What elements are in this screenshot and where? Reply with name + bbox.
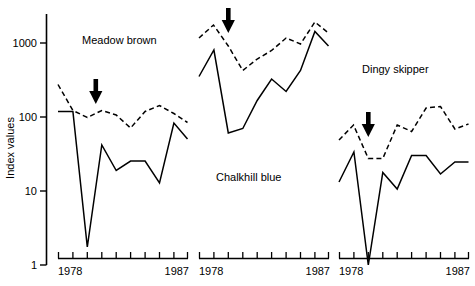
panel1-solid-series — [58, 112, 188, 248]
panel1-year-end: 1987 — [165, 265, 189, 277]
panel1-year-start: 1978 — [58, 265, 82, 277]
panel1-down-arrow-icon — [89, 79, 102, 104]
y-tick-label-10: 10 — [25, 185, 37, 197]
panel2-down-arrow-icon — [222, 8, 235, 33]
y-tick-label-1000: 1000 — [13, 37, 37, 49]
y-axis-title: Index values — [4, 117, 16, 179]
y-axis: 1000 100 10 1 Index values — [4, 14, 47, 271]
panel1-dashed-series — [58, 85, 188, 129]
y-tick-label-100: 100 — [19, 111, 37, 123]
panel-meadow-brown: 1978 1987 Meadow brown — [58, 34, 189, 277]
panel3-species-label: Dingy skipper — [362, 63, 429, 75]
y-tick-label-1: 1 — [31, 259, 37, 271]
chart-canvas: 1000 100 10 1 Index values 1978 — [0, 0, 475, 286]
panel-dingy-skipper: 1978 1987 Dingy skipper — [339, 63, 470, 277]
panel3-year-start: 1978 — [339, 265, 363, 277]
panel-chalkhill-blue: 1978 1987 Chalkhill blue — [199, 8, 330, 277]
panel3-down-arrow-icon — [362, 112, 375, 137]
butterfly-index-figure: 1000 100 10 1 Index values 1978 — [0, 0, 475, 286]
panel3-dashed-series — [339, 107, 469, 159]
panel2-year-end: 1987 — [306, 265, 330, 277]
panel3-x-axis: 1978 1987 — [339, 252, 470, 277]
panel3-year-end: 1987 — [446, 265, 470, 277]
panel2-x-axis: 1978 1987 — [199, 252, 330, 277]
panel3-solid-series — [339, 152, 469, 265]
panel1-species-label: Meadow brown — [82, 34, 157, 46]
panel2-species-label: Chalkhill blue — [216, 171, 281, 183]
panel2-year-start: 1978 — [199, 265, 223, 277]
panel2-solid-series — [199, 32, 329, 134]
panel1-x-axis: 1978 1987 — [58, 252, 189, 277]
